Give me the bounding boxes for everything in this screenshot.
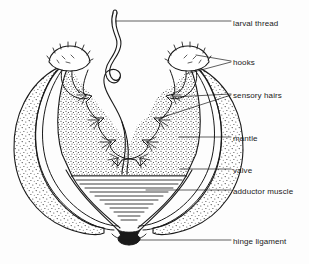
label-hooks: hooks bbox=[233, 58, 255, 67]
label-mantle: mantle bbox=[233, 134, 258, 143]
diagram-canvas bbox=[0, 0, 309, 264]
label-hinge-ligament: hinge ligament bbox=[233, 237, 286, 246]
label-sensory-hairs: sensory hairs bbox=[233, 91, 282, 100]
mantle bbox=[58, 66, 201, 176]
label-larval-thread: larval thread bbox=[233, 19, 278, 28]
label-adductor-muscle: adductor muscle bbox=[233, 187, 293, 196]
hinge-ligament bbox=[112, 230, 146, 245]
glochidium-diagram: larval thread hooks sensory hairs mantle… bbox=[0, 0, 309, 264]
label-valve: valve bbox=[233, 166, 252, 175]
